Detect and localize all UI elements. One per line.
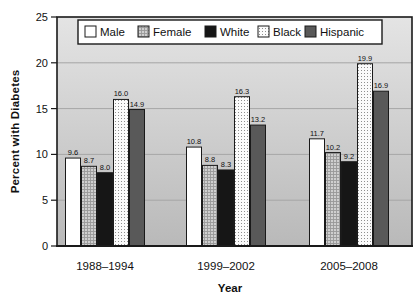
bar-female-1999-2002 (203, 165, 218, 246)
diabetes-bar-chart-figure: 9.68.78.016.014.91988–199410.88.88.316.3… (0, 0, 418, 307)
bar-hispanic-1988-1994 (130, 110, 145, 246)
legend-label-female: Female (153, 26, 191, 38)
value-label-black-2005-2008: 19.9 (358, 54, 373, 63)
bar-female-2005-2008 (326, 153, 341, 246)
value-label-male-1999-2002: 10.8 (187, 137, 202, 146)
legend-label-male: Male (100, 26, 125, 38)
bar-white-1999-2002 (219, 170, 234, 246)
bar-male-1988-1994 (66, 158, 81, 246)
bar-white-2005-2008 (342, 162, 357, 246)
legend-swatch-hispanic (305, 26, 316, 37)
value-label-female-2005-2008: 10.2 (326, 143, 341, 152)
y-axis-tick-label-10: 10 (36, 148, 48, 160)
legend-label-white: White (220, 26, 249, 38)
value-label-hispanic-1999-2002: 13.2 (251, 115, 266, 124)
chart-canvas: 9.68.78.016.014.91988–199410.88.88.316.3… (0, 0, 418, 307)
value-label-black-1988-1994: 16.0 (114, 89, 129, 98)
legend-label-hispanic: Hispanic (320, 26, 364, 38)
value-label-male-1988-1994: 9.6 (68, 148, 78, 157)
y-axis-tick-label-15: 15 (36, 103, 48, 115)
bar-female-1988-1994 (82, 166, 97, 246)
y-axis-tick-label-0: 0 (42, 240, 48, 252)
value-label-white-2005-2008: 9.2 (344, 152, 354, 161)
legend-label-black: Black (273, 26, 301, 38)
y-axis-tick-label-20: 20 (36, 57, 48, 69)
bar-hispanic-1999-2002 (251, 125, 266, 246)
value-label-male-2005-2008: 11.7 (310, 129, 324, 138)
value-label-female-1988-1994: 8.7 (84, 156, 94, 165)
bar-male-2005-2008 (310, 139, 325, 246)
value-label-hispanic-1988-1994: 14.9 (130, 100, 145, 109)
legend-swatch-male (85, 26, 96, 37)
x-axis-title: Year (57, 282, 403, 294)
legend-swatch-female (138, 26, 149, 37)
value-label-black-1999-2002: 16.3 (235, 87, 250, 96)
bar-black-1999-2002 (235, 97, 250, 246)
legend-swatch-black (258, 26, 269, 37)
bar-hispanic-2005-2008 (374, 91, 389, 246)
x-category-label-2005-2008: 2005–2008 (320, 260, 378, 272)
legend-swatch-white (205, 26, 216, 37)
value-label-hispanic-2005-2008: 16.9 (374, 81, 389, 90)
value-label-female-1999-2002: 8.8 (205, 155, 215, 164)
bar-black-2005-2008 (358, 64, 373, 246)
y-axis-tick-label-5: 5 (42, 194, 48, 206)
value-label-white-1999-2002: 8.3 (221, 160, 231, 169)
x-category-label-1999-2002: 1999–2002 (197, 260, 255, 272)
y-axis-title: Percent with Diabetes (9, 17, 24, 247)
value-label-white-1988-1994: 8.0 (100, 163, 110, 172)
x-category-label-1988-1994: 1988–1994 (76, 260, 134, 272)
bar-white-1988-1994 (98, 173, 113, 246)
y-axis-tick-label-25: 25 (36, 11, 48, 23)
bar-male-1999-2002 (187, 147, 202, 246)
bar-black-1988-1994 (114, 99, 129, 246)
